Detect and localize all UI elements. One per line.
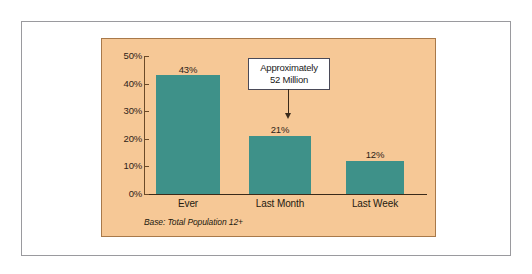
category-label-last-month: Last Month <box>246 198 314 209</box>
bar-last-month[interactable] <box>249 136 311 194</box>
callout-annotation-box: Approximately 52 Million <box>248 58 330 90</box>
category-label-ever: Ever <box>156 198 220 209</box>
bar-value-ever: 43% <box>156 64 220 75</box>
bar-last-week[interactable] <box>346 161 404 194</box>
x-axis-baseline <box>144 194 427 195</box>
bar-ever[interactable] <box>156 75 220 194</box>
category-label-last-week: Last Week <box>344 198 406 209</box>
callout-line-2: 52 Million <box>251 74 327 86</box>
callout-arrow-line <box>288 89 289 114</box>
callout-arrow-head-icon <box>285 113 291 119</box>
callout-line-1: Approximately <box>251 62 327 74</box>
chart-plot-panel: 50% 40% 30% 20% 10% 0% 43% 21% 12% Ever … <box>101 38 436 237</box>
bar-value-last-month: 21% <box>249 124 311 135</box>
y-tick-mark-0 <box>144 194 149 195</box>
bar-value-last-week: 12% <box>346 149 404 160</box>
chart-figure: 50% 40% 30% 20% 10% 0% 43% 21% 12% Ever … <box>0 0 532 274</box>
chart-footnote: Base: Total Population 12+ <box>144 217 243 227</box>
